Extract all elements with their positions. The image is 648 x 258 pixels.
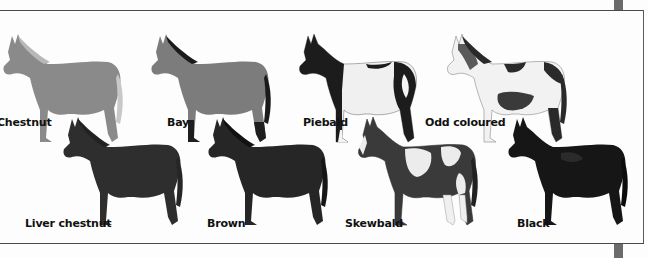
horse-illustration-icon (148, 30, 276, 148)
top-rule (0, 10, 644, 11)
label-brown: Brown (207, 217, 245, 230)
horse-bay (148, 30, 276, 148)
horse-illustration-icon (444, 30, 572, 148)
horse-piebald (296, 30, 424, 148)
label-black: Black (517, 217, 549, 230)
book-page: Chestnut Bay Piebald Odd coloured Liver … (0, 0, 648, 258)
page-edge-tab-top (614, 0, 623, 10)
label-skewbald: Skewbald (345, 217, 403, 230)
bottom-rule (0, 243, 644, 244)
page-edge-tab-bottom (614, 244, 623, 258)
label-chestnut: Chestnut (0, 116, 52, 129)
right-border (643, 10, 644, 243)
label-bay: Bay (167, 116, 189, 129)
label-liver-chestnut: Liver chestnut (25, 217, 111, 230)
horse-odd-coloured (444, 30, 572, 148)
horse-illustration-icon (0, 30, 128, 148)
label-piebald: Piebald (303, 116, 348, 129)
label-odd-coloured: Odd coloured (425, 116, 506, 129)
horse-chestnut (0, 30, 128, 148)
horse-illustration-icon (296, 30, 424, 148)
